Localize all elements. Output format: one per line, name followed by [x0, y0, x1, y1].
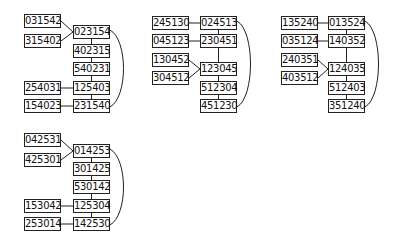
node-box: 512304: [200, 81, 237, 95]
node-box: 402315: [73, 44, 110, 58]
edge-line: [61, 151, 73, 160]
node-box: 031542: [24, 14, 61, 28]
node-box: 035124: [281, 34, 318, 48]
node-box: 125403: [73, 81, 110, 95]
node-box: 231540: [73, 99, 110, 113]
edge-line: [61, 32, 73, 41]
node-box: 024513: [200, 16, 237, 30]
node-box: 135240: [281, 16, 318, 30]
node-box: 130452: [152, 53, 189, 67]
edge-line: [318, 60, 328, 69]
node-box: 230451: [200, 34, 237, 48]
node-box: 240351: [281, 53, 318, 67]
node-box: 045123: [152, 34, 189, 48]
arc-edge: [110, 30, 124, 107]
edge-line: [318, 69, 328, 78]
edge-line: [189, 69, 200, 78]
node-box: 315402: [24, 34, 61, 48]
node-box: 042531: [24, 133, 61, 147]
node-box: 253014: [24, 217, 61, 231]
edge-line: [61, 140, 73, 151]
node-box: 304512: [152, 71, 189, 85]
node-box: 425301: [24, 153, 61, 167]
node-box: 451230: [200, 99, 237, 113]
edge-line: [189, 60, 200, 69]
edge-line: [61, 21, 73, 32]
node-box: 140352: [328, 34, 365, 48]
node-box: 301425: [73, 162, 110, 176]
node-box: 403512: [281, 71, 318, 85]
node-box: 540231: [73, 62, 110, 76]
node-box: 512403: [328, 81, 365, 95]
node-box: 154023: [24, 99, 61, 113]
node-box: 254031: [24, 81, 61, 95]
node-box: 142530: [73, 217, 110, 231]
node-box: 351240: [328, 99, 365, 113]
arc-edge: [365, 21, 379, 107]
node-box: 123045: [200, 62, 237, 76]
node-box: 530142: [73, 180, 110, 194]
node-box: 125304: [73, 199, 110, 213]
node-box: 014253: [73, 144, 110, 158]
arc-edge: [237, 21, 251, 107]
node-box: 124035: [328, 62, 365, 76]
node-box: 245130: [152, 16, 189, 30]
arc-edge: [110, 149, 124, 225]
node-box: 153042: [24, 199, 61, 213]
node-box: 023154: [73, 25, 110, 39]
node-box: 013524: [328, 16, 365, 30]
